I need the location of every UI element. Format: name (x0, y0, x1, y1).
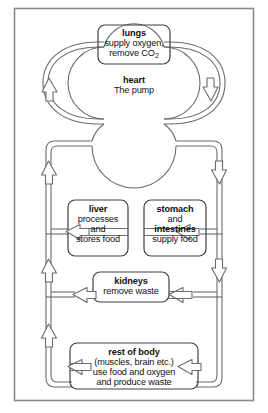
diagram-canvas (0, 0, 268, 413)
circulatory-system-diagram: lungs supply oxygen, remove CO2 heart Th… (0, 0, 268, 413)
